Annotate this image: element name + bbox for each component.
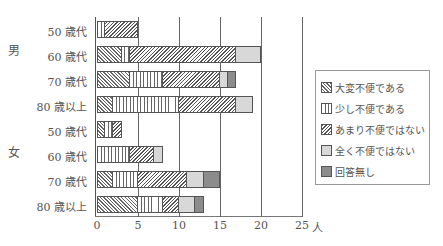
bar-segment: [97, 46, 122, 63]
bar: [97, 121, 122, 138]
plot-area: [97, 17, 302, 217]
category-label: 60 歳代: [48, 148, 88, 164]
bar-segment: [138, 171, 187, 188]
x-tick-label: 20: [254, 219, 268, 232]
bar: [97, 46, 261, 63]
hatch-backdiagonal-icon: [321, 124, 332, 135]
legend: 大変不便である 少し不便である あまり不便ではない 全く不便ではない 回答無し: [315, 70, 430, 185]
category-label: 70 歳代: [48, 73, 88, 89]
bar-segment: [220, 71, 228, 88]
legend-item: あまり不便ではない: [321, 119, 429, 140]
bar: [97, 71, 236, 88]
bar: [97, 171, 220, 188]
bar: [97, 21, 138, 38]
legend-item: 回答無し: [321, 161, 429, 182]
bar-segment: [122, 46, 130, 63]
group-label-female: 女: [8, 143, 20, 160]
bar-segment: [163, 196, 179, 213]
category-label: 70 歳代: [48, 173, 88, 189]
bar-segment: [97, 171, 113, 188]
bar-segment: [236, 96, 252, 113]
category-label: 50 歳代: [48, 123, 88, 139]
bar-segment: [113, 171, 138, 188]
swatch-dark-gray-icon: [321, 166, 332, 177]
bar: [97, 196, 204, 213]
bar-segment: [130, 46, 237, 63]
bar-segment: [163, 71, 220, 88]
y-axis: [95, 17, 96, 217]
hatch-diagonal-icon: [321, 82, 332, 93]
bar: [97, 146, 163, 163]
legend-item: 少し不便である: [321, 98, 429, 119]
x-tick-label: 15: [213, 219, 227, 232]
x-tick-label: 25: [295, 219, 309, 232]
category-label: 60 歳代: [48, 48, 88, 64]
bar-segment: [154, 146, 162, 163]
bar-segment: [113, 96, 179, 113]
group-label-male: 男: [8, 41, 20, 58]
bar-segment: [97, 21, 105, 38]
category-label: 80 歳以上: [37, 198, 88, 214]
swatch-light-gray-icon: [321, 145, 332, 156]
gridline: [302, 17, 303, 217]
bar-segment: [236, 46, 261, 63]
bar-segment: [97, 71, 130, 88]
legend-item: 大変不便である: [321, 77, 429, 98]
gridline: [261, 17, 262, 217]
bar-segment: [97, 96, 113, 113]
category-label: 80 歳以上: [37, 98, 88, 114]
bar-segment: [204, 171, 220, 188]
bar-segment: [105, 121, 113, 138]
bar-segment: [97, 196, 138, 213]
bar-segment: [187, 171, 203, 188]
bar-segment: [130, 71, 163, 88]
category-label: 50 歳代: [48, 23, 88, 39]
bar-segment: [138, 196, 163, 213]
bar-segment: [113, 121, 121, 138]
x-axis-unit: 人: [312, 219, 323, 235]
x-tick-label: 5: [135, 219, 142, 232]
bar-segment: [130, 146, 155, 163]
bar-segment: [105, 21, 138, 38]
x-tick-label: 0: [94, 219, 101, 232]
x-tick-label: 10: [172, 219, 186, 232]
bar-segment: [179, 96, 236, 113]
bar-segment: [228, 71, 236, 88]
hatch-vertical-icon: [321, 103, 332, 114]
bar: [97, 96, 253, 113]
bar-segment: [195, 196, 203, 213]
legend-item: 全く不便ではない: [321, 140, 429, 161]
bar-segment: [97, 121, 105, 138]
bar-segment: [97, 146, 130, 163]
bar-segment: [179, 196, 195, 213]
